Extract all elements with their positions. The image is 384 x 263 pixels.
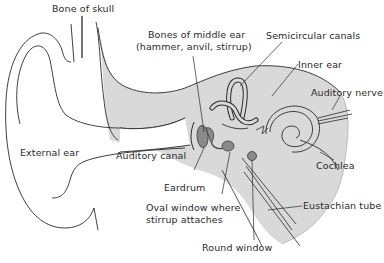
label-bones-middle-ear-line1: Bones of middle ear [148,29,245,40]
label-auditory-canal: Auditory canal [116,150,186,161]
label-external-ear: External ear [20,147,79,158]
label-oval-window-line1: Oval window where [146,202,241,213]
label-bones-middle-ear-line2: (hammer, anvil, stirrup) [136,41,252,52]
round-window [248,152,257,161]
label-oval-window-line2: stirrup attaches [146,214,223,225]
ear-anatomy-diagram: Bone of skull Bones of middle ear (hamme… [0,0,384,263]
label-bone-of-skull: Bone of skull [52,3,114,14]
label-inner-ear: Inner ear [298,59,342,70]
skull-bone-line [71,24,74,62]
label-auditory-nerve: Auditory nerve [311,87,383,98]
pinna-outline [6,33,98,230]
label-eardrum: Eardrum [164,182,205,193]
label-semicircular-canals: Semicircular canals [266,30,360,41]
label-cochlea: Cochlea [316,160,355,171]
label-eustachian-tube: Eustachian tube [303,200,381,211]
label-round-window: Round window [202,242,272,253]
